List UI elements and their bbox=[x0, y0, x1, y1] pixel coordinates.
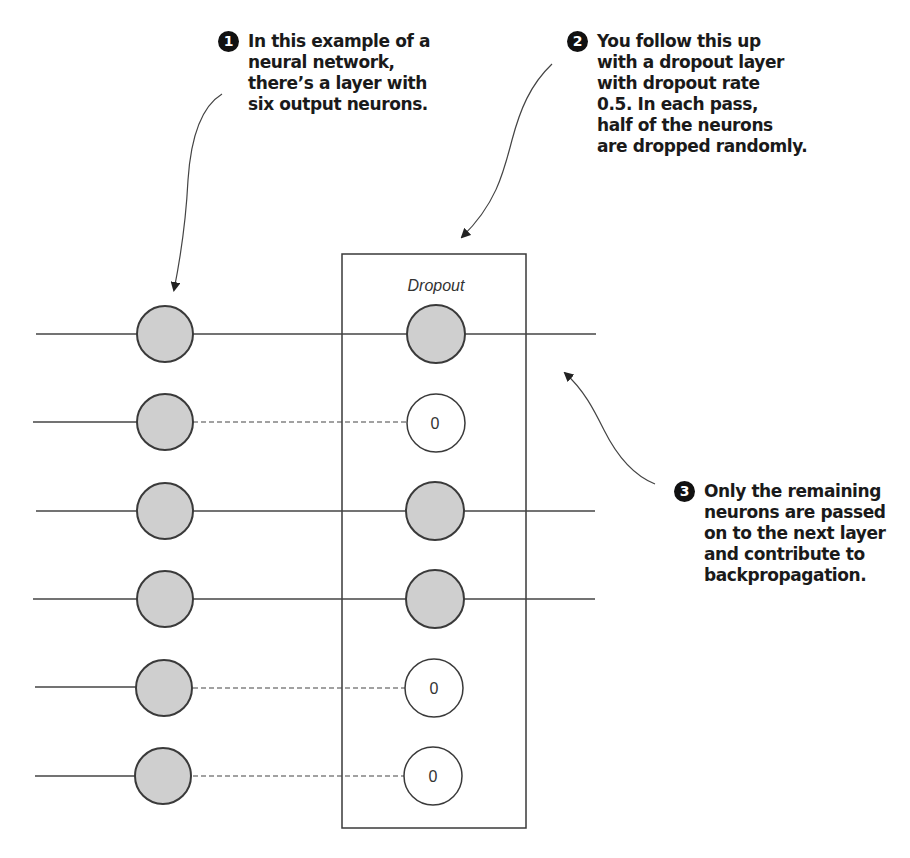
annotation-text-line: on to the next layer bbox=[704, 523, 886, 544]
callout-arrow-1 bbox=[174, 94, 222, 290]
callout-arrow-3 bbox=[565, 373, 655, 484]
annotation-1: 1 In this example of a neural network, t… bbox=[248, 31, 430, 115]
annotation-text-line: Only the remaining bbox=[704, 481, 886, 502]
neuron-row-6: 0 bbox=[35, 747, 462, 805]
input-neuron bbox=[137, 571, 193, 627]
input-neuron bbox=[135, 748, 191, 804]
callout-number-badge: 3 bbox=[674, 481, 695, 502]
input-neuron bbox=[136, 660, 192, 716]
dropout-neuron-kept bbox=[406, 570, 464, 628]
annotation-text-line: there’s a layer with bbox=[248, 73, 430, 94]
annotation-text-line: with a dropout layer bbox=[597, 52, 807, 73]
annotation-3: 3 Only the remaining neurons are passed … bbox=[704, 481, 886, 586]
neuron-row-4 bbox=[33, 570, 595, 628]
neuron-row-2: 0 bbox=[33, 394, 465, 452]
dropped-value: 0 bbox=[429, 768, 438, 785]
neuron-row-3 bbox=[36, 482, 595, 540]
input-neuron bbox=[137, 483, 193, 539]
annotation-text-line: 0.5. In each pass, bbox=[597, 94, 807, 115]
dropout-neuron-kept bbox=[406, 482, 464, 540]
dropout-layer-label: Dropout bbox=[408, 277, 465, 294]
annotation-text-line: with dropout rate bbox=[597, 73, 807, 94]
annotation-2: 2 You follow this up with a dropout laye… bbox=[597, 31, 807, 157]
input-neuron bbox=[137, 394, 193, 450]
annotation-text-line: neurons are passed bbox=[704, 502, 886, 523]
annotation-text-line: half of the neurons bbox=[597, 115, 807, 136]
dropped-value: 0 bbox=[431, 415, 440, 432]
annotation-text-line: You follow this up bbox=[597, 31, 807, 52]
callout-arrow-2 bbox=[462, 64, 552, 237]
input-neuron bbox=[137, 306, 193, 362]
annotation-text-line: are dropped randomly. bbox=[597, 136, 807, 157]
annotation-text-line: and contribute to bbox=[704, 544, 886, 565]
annotation-text-line: neural network, bbox=[248, 52, 430, 73]
neuron-row-1 bbox=[36, 305, 596, 363]
dropped-value: 0 bbox=[430, 680, 439, 697]
annotation-text-line: six output neurons. bbox=[248, 94, 430, 115]
annotation-text-line: backpropagation. bbox=[704, 565, 886, 586]
dropout-neuron-kept bbox=[407, 305, 465, 363]
callout-number-badge: 2 bbox=[567, 31, 588, 52]
annotation-text-line: In this example of a bbox=[248, 31, 430, 52]
neuron-row-5: 0 bbox=[35, 659, 463, 717]
callout-number-badge: 1 bbox=[218, 31, 239, 52]
